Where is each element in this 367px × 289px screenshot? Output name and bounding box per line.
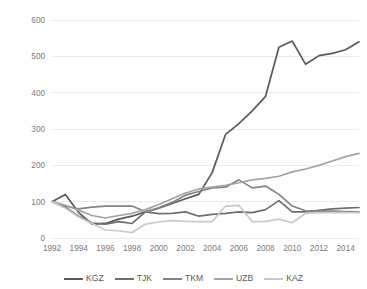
legend-swatch-icon — [64, 278, 83, 280]
y-axis-tick-labels: 0100200300400500600 — [31, 16, 45, 243]
legend-item-label: KGZ — [86, 274, 104, 283]
series-line-uzb — [52, 153, 359, 218]
x-tick-label: 2008 — [256, 244, 275, 253]
x-tick-label: 1998 — [123, 244, 142, 253]
legend-swatch-icon — [115, 278, 134, 280]
chart-plot-area: 0100200300400500600 19921994199619982000… — [0, 0, 367, 289]
x-tick-label: 1994 — [70, 244, 89, 253]
y-tick-label: 400 — [31, 89, 45, 98]
y-tick-label: 300 — [31, 125, 45, 134]
y-tick-label: 0 — [40, 234, 45, 243]
x-tick-label: 2006 — [230, 244, 249, 253]
x-tick-label: 1992 — [43, 244, 62, 253]
legend-swatch-icon — [264, 278, 283, 280]
x-tick-label: 2004 — [203, 244, 222, 253]
legend-item-label: TKM — [185, 274, 203, 283]
legend-item-label: UZB — [236, 274, 253, 283]
chart-legend: KGZTJKTKMUZBKAZ — [0, 274, 367, 283]
legend-swatch-icon — [214, 278, 233, 280]
y-tick-label: 100 — [31, 198, 45, 207]
legend-swatch-icon — [163, 278, 182, 280]
x-axis-tick-labels: 1992199419961998200020022004200620082010… — [43, 244, 355, 253]
legend-item-tkm[interactable]: TKM — [163, 274, 203, 283]
legend-item-kaz[interactable]: KAZ — [264, 274, 303, 283]
legend-item-kgz[interactable]: KGZ — [64, 274, 104, 283]
legend-item-tjk[interactable]: TJK — [115, 274, 152, 283]
legend-item-label: KAZ — [286, 274, 303, 283]
x-tick-label: 2012 — [310, 244, 329, 253]
line-chart: 0100200300400500600 19921994199619982000… — [0, 0, 367, 289]
y-tick-label: 500 — [31, 52, 45, 61]
legend-item-label: TJK — [137, 274, 152, 283]
x-tick-label: 1996 — [96, 244, 115, 253]
x-tick-label: 2000 — [150, 244, 169, 253]
y-tick-label: 200 — [31, 161, 45, 170]
legend-item-uzb[interactable]: UZB — [214, 274, 253, 283]
series-line-kgz — [52, 41, 359, 224]
x-tick-label: 2002 — [176, 244, 195, 253]
x-tick-label: 2010 — [283, 244, 302, 253]
gridlines — [52, 20, 359, 238]
x-tick-label: 2014 — [337, 244, 356, 253]
data-series — [52, 41, 359, 232]
y-tick-label: 600 — [31, 16, 45, 25]
